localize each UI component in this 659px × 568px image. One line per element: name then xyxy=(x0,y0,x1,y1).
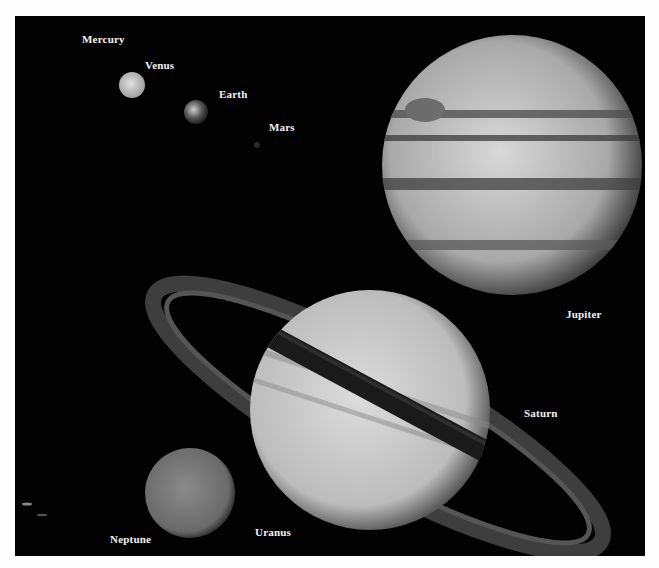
mars-planet xyxy=(254,142,260,148)
label-uranus: Uranus xyxy=(255,526,291,538)
label-earth: Earth xyxy=(219,88,248,100)
label-neptune: Neptune xyxy=(110,533,151,545)
planets-image-panel xyxy=(15,16,645,556)
label-mercury: Mercury xyxy=(82,33,125,45)
label-mars: Mars xyxy=(269,121,295,133)
planets-illustration xyxy=(15,16,645,556)
saturn-planet xyxy=(240,290,520,530)
uranus-planet xyxy=(145,448,235,538)
faint-object xyxy=(22,503,47,517)
label-venus: Venus xyxy=(145,59,174,71)
label-jupiter: Jupiter xyxy=(566,308,602,320)
earth-planet xyxy=(184,100,208,124)
venus-planet xyxy=(119,72,145,98)
label-saturn: Saturn xyxy=(524,407,558,419)
jupiter-planet xyxy=(380,35,645,295)
